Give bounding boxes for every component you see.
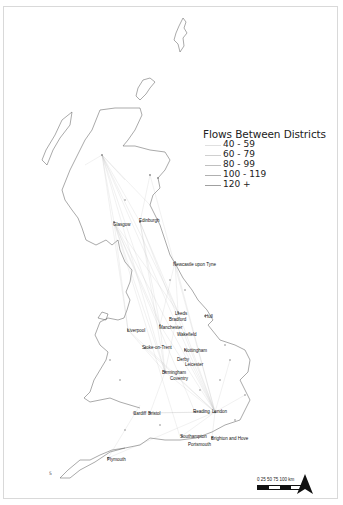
city-label: Hull <box>205 314 213 319</box>
city-label: Wakefield <box>177 332 197 337</box>
north-arrow-icon <box>297 474 313 498</box>
misc-label: 5 <box>49 471 52 476</box>
legend-swatch <box>205 165 221 166</box>
legend-swatch <box>205 155 221 156</box>
city-label: Bradford <box>169 317 186 322</box>
city-label: Birmingham <box>162 370 186 375</box>
city-label: Reading <box>193 409 210 414</box>
city-label: Liverpool <box>127 328 145 333</box>
city-label: Coventry <box>170 376 188 381</box>
legend: Flows Between Districts 40 - 59 60 - 79 … <box>203 128 326 190</box>
city-label: Nottingham <box>184 348 207 353</box>
legend-swatch <box>205 175 221 176</box>
city-label: Leicester <box>185 362 203 367</box>
city-label: London <box>212 409 227 414</box>
map-canvas <box>0 0 343 505</box>
legend-title: Flows Between Districts <box>203 128 326 140</box>
city-label: Bristol <box>148 411 161 416</box>
city-label: Edinburgh <box>139 218 160 223</box>
city-label: Leeds <box>175 311 187 316</box>
city-label: Stoke-on-Trent <box>142 345 172 350</box>
city-label: Brighton and Hove <box>211 436 248 441</box>
city-label: Manchester <box>159 325 183 330</box>
legend-swatch <box>205 185 221 186</box>
city-label: Southampton <box>180 434 207 439</box>
legend-item: 120 + <box>205 180 326 190</box>
city-label: Cardiff <box>133 411 146 416</box>
city-label: Plymouth <box>107 457 126 462</box>
city-label: Newcastle upon Tyne <box>173 262 216 267</box>
legend-swatch <box>205 145 221 146</box>
city-label: Portsmouth <box>188 442 211 447</box>
city-label: Glasgow <box>113 222 131 227</box>
